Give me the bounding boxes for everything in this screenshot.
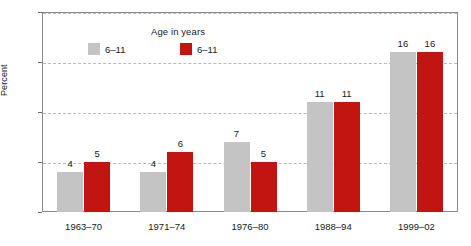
x-tick-label: 1976–80	[205, 221, 295, 232]
bar	[334, 102, 360, 212]
bar	[140, 172, 166, 212]
y-tick-mark	[38, 212, 42, 213]
legend-label: 6–11	[197, 44, 217, 55]
bar	[224, 142, 250, 212]
bar-value-label: 5	[251, 148, 277, 159]
bar-value-label: 7	[224, 128, 250, 139]
bar-chart: Percent 05101520 45467511111616 1963–701…	[0, 0, 471, 246]
legend-swatch-icon	[88, 43, 100, 55]
legend-label: 6–11	[105, 44, 125, 55]
bar	[57, 172, 83, 212]
x-tick-label: 1988–94	[288, 221, 378, 232]
bar-value-label: 16	[390, 38, 416, 49]
bar	[251, 162, 277, 212]
legend: Age in years 6–116–11	[88, 26, 268, 57]
bar	[390, 52, 416, 212]
bar-group: 1616	[390, 12, 443, 212]
legend-title: Age in years	[88, 26, 268, 37]
y-axis-label: Percent	[0, 6, 9, 96]
bar-value-label: 5	[84, 148, 110, 159]
x-tick-label: 1971–74	[122, 221, 212, 232]
legend-items: 6–116–11	[88, 43, 268, 57]
bar-value-label: 11	[307, 88, 333, 99]
x-tick-label: 1999–02	[371, 221, 461, 232]
bar	[167, 152, 193, 212]
bar-value-label: 4	[57, 158, 83, 169]
legend-item: 6–11	[180, 43, 217, 55]
bar	[307, 102, 333, 212]
bar-value-label: 6	[167, 138, 193, 149]
bar	[84, 162, 110, 212]
legend-item: 6–11	[88, 43, 125, 55]
bar-group: 1111	[307, 12, 360, 212]
legend-swatch-icon	[180, 43, 192, 55]
bar-value-label: 11	[334, 88, 360, 99]
bar-value-label: 16	[417, 38, 443, 49]
bar-value-label: 4	[140, 158, 166, 169]
bar	[417, 52, 443, 212]
x-tick-label: 1963–70	[39, 221, 129, 232]
